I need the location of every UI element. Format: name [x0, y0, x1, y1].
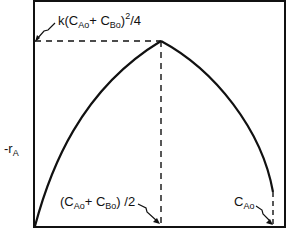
mid-label-leader-arrow: [138, 204, 157, 221]
peak-label-leader-arrow: [37, 23, 55, 39]
cao-label-arrowhead: [266, 219, 273, 225]
peak-rate-label: k(CAo+ CBo)2/4: [58, 12, 141, 30]
x-midpoint-label: (CAo+ CBo) /2: [60, 195, 135, 211]
x-end-label: CAo: [234, 195, 254, 211]
cao-label-leader-arrow: [256, 206, 270, 221]
rate-curve-falling: [161, 41, 273, 192]
y-axis-label: -rA: [4, 142, 19, 158]
